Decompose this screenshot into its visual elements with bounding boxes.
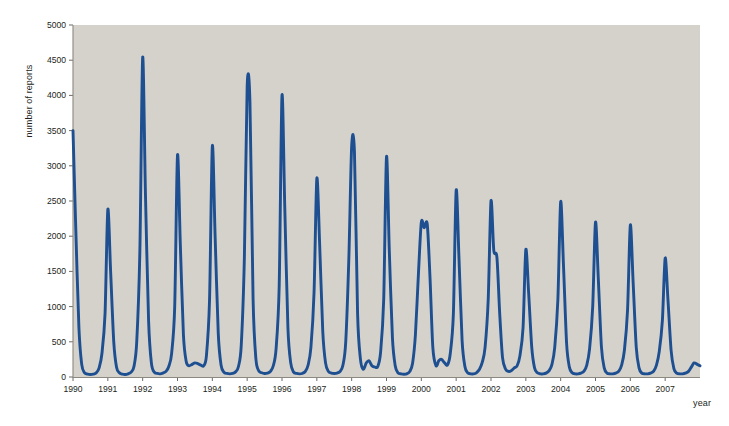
x-tick-label: 2000 <box>412 384 431 394</box>
x-axis-ticks: 1990199119921993199419951996199719981999… <box>63 377 675 394</box>
x-tick-label: 1999 <box>377 384 396 394</box>
x-tick-label: 1995 <box>238 384 257 394</box>
x-tick-label: 2001 <box>447 384 466 394</box>
y-tick-label: 3000 <box>47 161 66 171</box>
y-axis-title: number of reports <box>24 46 34 156</box>
x-axis-title: year <box>693 398 711 408</box>
x-tick-label: 1994 <box>203 384 222 394</box>
x-tick-label: 1990 <box>63 384 82 394</box>
x-tick-label: 2005 <box>586 384 605 394</box>
x-tick-label: 1993 <box>168 384 187 394</box>
y-axis-ticks: 0500100015002000250030003500400045005000 <box>47 20 73 382</box>
y-tick-label: 2500 <box>47 196 66 206</box>
y-tick-label: 5000 <box>47 20 66 30</box>
x-tick-label: 2002 <box>481 384 500 394</box>
x-tick-label: 2004 <box>551 384 570 394</box>
y-tick-label: 1500 <box>47 266 66 276</box>
y-tick-label: 4500 <box>47 55 66 65</box>
x-tick-label: 1991 <box>98 384 117 394</box>
x-tick-label: 2006 <box>621 384 640 394</box>
x-tick-label: 1996 <box>272 384 291 394</box>
x-tick-label: 2007 <box>656 384 675 394</box>
y-tick-label: 2000 <box>47 231 66 241</box>
y-tick-label: 0 <box>61 372 66 382</box>
x-tick-label: 1997 <box>307 384 326 394</box>
y-tick-label: 4000 <box>47 90 66 100</box>
y-tick-label: 500 <box>52 337 67 347</box>
x-tick-label: 2003 <box>516 384 535 394</box>
x-tick-label: 1992 <box>133 384 152 394</box>
x-tick-label: 1998 <box>342 384 361 394</box>
y-tick-label: 3500 <box>47 126 66 136</box>
chart-figure: number of reports year 05001000150020002… <box>0 0 729 426</box>
y-tick-label: 1000 <box>47 302 66 312</box>
line-chart-plot: 0500100015002000250030003500400045005000… <box>0 0 729 426</box>
